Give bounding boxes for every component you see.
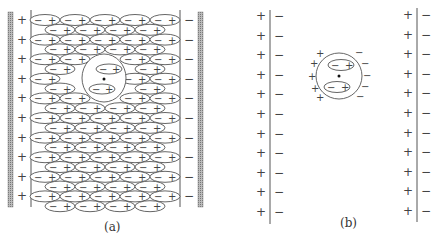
svg-text:−: − [361,58,369,69]
right-plate-charges: −−−−−−−−−− [184,13,194,203]
svg-text:+: + [168,133,176,144]
svg-text:+: + [310,58,318,69]
svg-text:−: − [274,9,284,23]
left-plate-charges: ++++++++++ [17,13,27,203]
svg-text:−: − [327,82,335,93]
svg-text:−: − [421,126,431,140]
svg-text:+: + [256,146,266,160]
svg-text:−: − [79,201,87,212]
svg-text:+: + [403,8,413,22]
svg-text:+: + [256,9,266,23]
svg-text:−: − [274,205,284,219]
svg-text:−: − [421,184,431,198]
svg-text:−: − [421,8,431,22]
svg-text:+: + [345,60,353,71]
svg-text:+: + [93,44,101,55]
svg-text:+: + [17,170,27,184]
svg-text:−: − [421,86,431,100]
svg-text:+: + [17,131,27,145]
dipole: −+ [105,201,135,213]
svg-text:+: + [105,84,113,95]
svg-text:−: − [109,44,117,55]
svg-text:+: + [256,87,266,101]
svg-text:−: − [124,54,132,65]
svg-text:−: − [274,68,284,82]
svg-text:−: − [421,28,431,42]
svg-text:+: + [168,191,176,202]
svg-text:+: + [17,111,27,125]
svg-text:+: + [63,64,71,75]
cavity-dipole-lower: −+ [89,84,115,95]
svg-text:+: + [17,91,27,105]
spherical-cavity: −+ −+ [82,54,126,102]
svg-text:−: − [274,166,284,180]
caption-a: (a) [104,220,121,234]
svg-text:−: − [421,204,431,218]
svg-text:+: + [168,15,176,26]
svg-text:−: − [274,127,284,141]
svg-text:−: − [184,170,194,184]
caption-b: (b) [340,216,357,230]
svg-text:−: − [421,145,431,159]
svg-text:+: + [341,82,349,93]
svg-text:+: + [123,201,131,212]
svg-text:+: + [403,165,413,179]
svg-text:+: + [256,205,266,219]
svg-text:−: − [184,13,194,27]
svg-text:+: + [168,113,176,124]
svg-text:−: − [184,111,194,125]
svg-text:−: − [92,84,100,95]
panel-b: +−+−+−+−+−+−+−+−+−+−+− +−+−+−+−+−+−+−+−+… [256,8,431,230]
speck: ʼ [10,82,12,90]
svg-text:+: + [403,47,413,61]
isolated-sphere: −+ −+ +++++−−−−− [308,47,371,103]
svg-text:+: + [403,28,413,42]
svg-text:−: − [363,70,371,81]
svg-text:−: − [34,93,42,104]
svg-text:+: + [403,106,413,120]
svg-text:+: + [403,184,413,198]
svg-text:+: + [403,67,413,81]
center-point [103,78,106,81]
svg-text:−: − [184,72,194,86]
svg-text:−: − [274,29,284,43]
svg-text:−: − [49,201,57,212]
right-electrode-plate [198,12,203,207]
dipole: −+ [45,201,75,213]
sphere-dipole-lower: −+ [324,82,350,94]
svg-text:+: + [403,145,413,159]
svg-text:−: − [34,152,42,163]
svg-text:−: − [274,185,284,199]
svg-text:+: + [316,92,324,103]
svg-text:−: − [421,165,431,179]
svg-text:+: + [168,152,176,163]
svg-text:+: + [168,54,176,65]
panel-a: ++++++++++ −−−−−−−−−− −+−+−+−+−+−+−+−+−+… [8,10,203,234]
svg-text:+: + [168,172,176,183]
center-point [338,75,341,78]
svg-text:−: − [184,33,194,47]
svg-text:+: + [63,201,71,212]
left-electrode-plate [8,12,13,207]
svg-text:−: − [34,133,42,144]
svg-text:−: − [274,87,284,101]
svg-text:+: + [256,48,266,62]
svg-text:+: + [256,107,266,121]
svg-text:+: + [256,68,266,82]
svg-text:−: − [109,201,117,212]
svg-text:+: + [112,64,120,75]
svg-text:−: − [34,172,42,183]
svg-text:+: + [256,166,266,180]
svg-text:−: − [99,64,107,75]
sphere-dipole-upper: −+ [328,60,354,72]
svg-text:+: + [256,127,266,141]
svg-text:−: − [34,15,42,26]
svg-text:+: + [153,201,161,212]
svg-text:−: − [184,91,194,105]
svg-text:+: + [403,86,413,100]
svg-text:+: + [78,54,86,65]
svg-text:−: − [184,189,194,203]
svg-text:+: + [308,71,316,82]
svg-text:−: − [34,191,42,202]
svg-text:+: + [17,33,27,47]
